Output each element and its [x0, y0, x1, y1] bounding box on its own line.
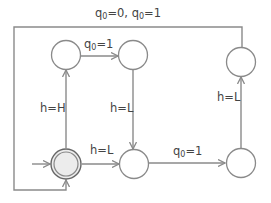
state-top-left	[52, 41, 81, 70]
state-bottom-middle	[120, 150, 149, 179]
label-text: =0,	[107, 6, 131, 20]
state-top-middle	[119, 41, 148, 70]
label-text: q	[132, 6, 139, 20]
state-bottom-right	[227, 149, 256, 178]
state-top-right	[227, 48, 256, 77]
label-top-loop: q0=0, q0=1	[95, 8, 161, 21]
state-start-accepting	[51, 149, 81, 179]
label-s3-s4: q0=1	[173, 146, 202, 159]
label-text: =1	[96, 37, 113, 51]
label-s0-s1: h=H	[40, 103, 66, 115]
label-text: =1	[185, 144, 202, 158]
label-text: =1	[144, 6, 161, 20]
label-s1-s2: q0=1	[84, 39, 113, 52]
label-s2-s3: h=L	[110, 103, 133, 115]
label-s4-s5: h=L	[217, 92, 240, 104]
label-s0-s3: h=L	[90, 145, 113, 157]
